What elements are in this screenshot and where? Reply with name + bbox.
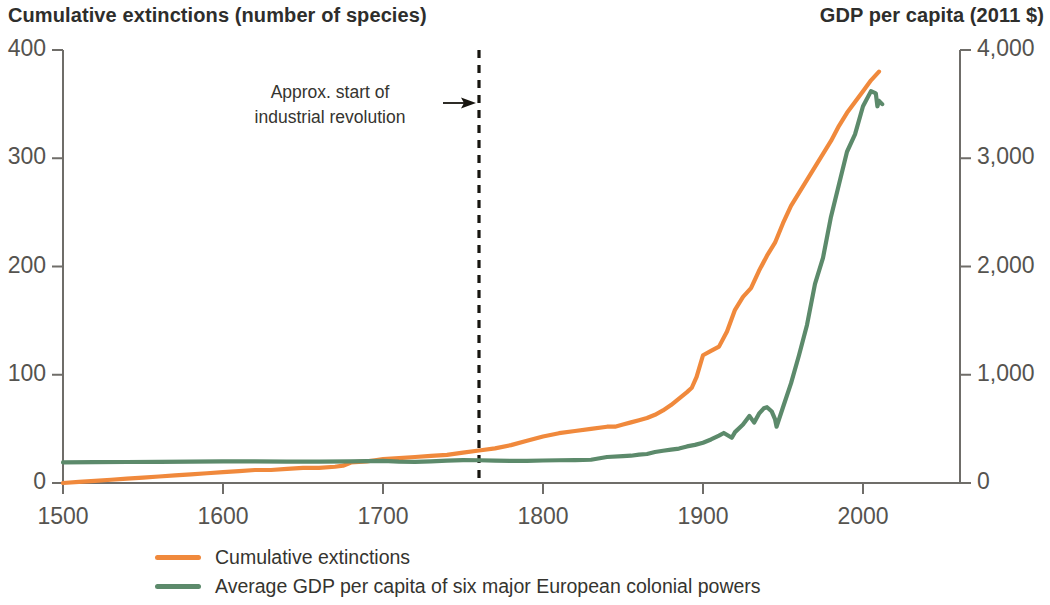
x-tick-label: 1600 [173, 503, 273, 530]
x-tick-label: 1500 [13, 503, 113, 530]
y-tick-label: 0 [0, 468, 46, 495]
series-lines [63, 72, 882, 483]
y2-tick-label: 0 [977, 468, 990, 495]
x-tick-label: 2000 [813, 503, 913, 530]
y-tick-label: 100 [0, 360, 46, 387]
y2-tick-label: 1,000 [977, 360, 1035, 387]
chart-legend: Cumulative extinctionsAverage GDP per ca… [155, 543, 1035, 601]
x-tick-label: 1900 [653, 503, 753, 530]
series-line-2 [63, 91, 882, 462]
annotation-line-2: industrial revolution [195, 105, 465, 130]
legend-item-label: Average GDP per capita of six major Euro… [215, 575, 761, 598]
legend-item[interactable]: Average GDP per capita of six major Euro… [155, 572, 1035, 601]
y2-tick-label: 4,000 [977, 35, 1035, 62]
y2-tick-label: 3,000 [977, 143, 1035, 170]
legend-swatch-icon [155, 555, 201, 560]
y-tick-label: 300 [0, 143, 46, 170]
y-tick-label: 200 [0, 252, 46, 279]
annotation-text: Approx. start of industrial revolution [195, 80, 465, 131]
legend-item-label: Cumulative extinctions [215, 546, 410, 569]
x-tick-label: 1800 [493, 503, 593, 530]
legend-item[interactable]: Cumulative extinctions [155, 543, 1035, 572]
x-tick-label: 1700 [333, 503, 433, 530]
y2-tick-label: 2,000 [977, 252, 1035, 279]
legend-swatch-icon [155, 584, 201, 589]
annotation-line-1: Approx. start of [195, 80, 465, 105]
y-tick-label: 400 [0, 35, 46, 62]
axes [52, 50, 971, 494]
